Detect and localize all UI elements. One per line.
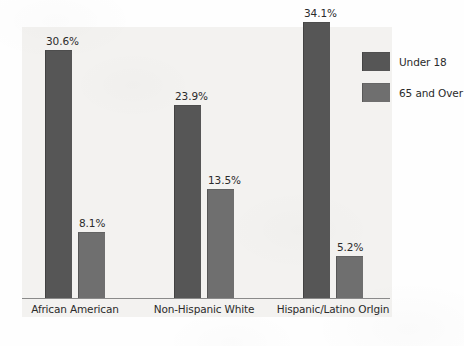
- legend-item-65-and-over[interactable]: 65 and Over: [362, 83, 463, 102]
- bar-value-label-1-1: 13.5%: [208, 174, 241, 186]
- bar-fill: [78, 232, 105, 298]
- chart-legend: Under 18 65 and Over: [362, 52, 463, 114]
- legend-swatch-under-18: [362, 52, 390, 71]
- bar-fill: [45, 50, 72, 298]
- bar-0-0: [45, 50, 72, 298]
- bar-fill: [336, 256, 363, 298]
- legend-item-under-18[interactable]: Under 18: [362, 52, 463, 71]
- x-axis-baseline: [22, 298, 390, 299]
- legend-label-under-18: Under 18: [399, 56, 447, 68]
- category-label-0: African American: [5, 303, 145, 315]
- legend-label-65-and-over: 65 and Over: [399, 87, 463, 99]
- bar-1-0: [174, 105, 201, 298]
- bar-value-label-0-1: 8.1%: [79, 217, 105, 229]
- bar-2-1: [336, 256, 363, 298]
- category-label-2: Hispanic/Latino OrIgin: [263, 303, 403, 315]
- bar-value-label-2-0: 34.1%: [304, 7, 337, 19]
- chart-page: 30.6%8.1%African American23.9%13.5%Non-H…: [0, 0, 464, 346]
- bar-value-label-2-1: 5.2%: [337, 241, 363, 253]
- bar-0-1: [78, 232, 105, 298]
- legend-swatch-65-and-over: [362, 83, 390, 102]
- bar-fill: [174, 105, 201, 298]
- bar-value-label-0-0: 30.6%: [46, 35, 79, 47]
- category-label-1: Non-Hispanic White: [134, 303, 274, 315]
- bar-fill: [207, 189, 234, 298]
- bar-fill: [303, 22, 330, 298]
- bar-value-label-1-0: 23.9%: [175, 90, 208, 102]
- bar-1-1: [207, 189, 234, 298]
- bar-2-0: [303, 22, 330, 298]
